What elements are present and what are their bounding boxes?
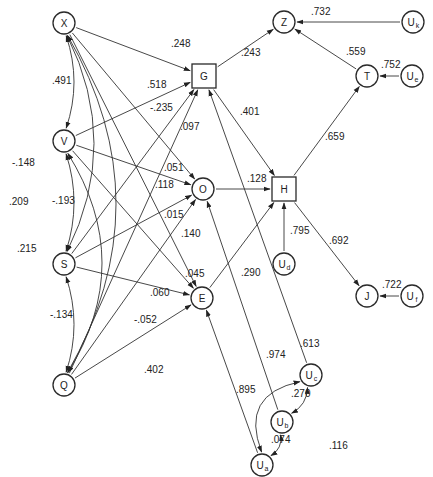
coefficient-label: .974 (266, 349, 286, 360)
coefficient-label: .243 (241, 47, 261, 58)
node-label: U (407, 17, 414, 28)
coefficient-label: .559 (346, 46, 366, 57)
node-label: H (280, 184, 287, 195)
path-arrow-s-to-o (75, 195, 191, 258)
nodes-layer: XVSQGOEHZUkTUeUdJUfUcUbUa (53, 11, 424, 476)
node-label: V (61, 136, 68, 147)
coefficient-label: .097 (180, 121, 200, 132)
node-subscript: d (287, 264, 291, 271)
node-uf: Uf (401, 285, 423, 307)
coefficient-label: .795 (290, 225, 310, 236)
coefficient-label: .722 (382, 279, 402, 290)
node-g: G (192, 64, 216, 88)
coefficient-label: -.193 (52, 195, 75, 206)
node-label: T (364, 71, 370, 82)
coefficient-label: .128 (247, 173, 267, 184)
coefficient-label: .613 (300, 338, 320, 349)
node-subscript: f (416, 296, 418, 303)
coefficient-label: -.052 (134, 314, 157, 325)
node-subscript: k (416, 22, 420, 29)
coefficient-label: -.148 (12, 157, 35, 168)
node-uk: Uk (402, 11, 424, 33)
path-arrow-q-to-o (72, 200, 196, 375)
coefficient-label: .248 (171, 38, 191, 49)
coefficient-label: .659 (325, 131, 345, 142)
path-arrow-v-to-g (76, 82, 190, 135)
node-t: T (356, 65, 378, 87)
path-diagram: XVSQGOEHZUkTUeUdJUfUcUbUa .248.518-.235.… (0, 0, 433, 477)
path-arrow-x-to-g (76, 28, 190, 71)
node-z: Z (273, 11, 295, 33)
coefficient-label: -.134 (50, 309, 73, 320)
coefficient-label: .051 (164, 162, 184, 173)
node-ue: Ue (401, 65, 423, 87)
node-ub: Ub (271, 411, 293, 433)
path-arrow-q-to-e (75, 305, 191, 378)
coefficient-label: .118 (155, 179, 174, 190)
node-v: V (53, 130, 75, 152)
coefficient-label: -.235 (150, 102, 173, 113)
coefficient-label: .270 (291, 388, 311, 399)
coefficient-label: .215 (17, 243, 37, 254)
node-ua: Ua (251, 454, 273, 476)
edges-layer (69, 22, 400, 453)
node-x: X (53, 12, 75, 34)
coefficient-label: .402 (144, 364, 164, 375)
coefficient-label: .692 (329, 235, 349, 246)
coefficient-label: .518 (147, 79, 167, 90)
coefficient-label: .045 (185, 268, 205, 279)
node-subscript: a (265, 465, 269, 472)
node-label: X (61, 18, 68, 29)
node-label: J (365, 291, 370, 302)
node-h: H (272, 177, 296, 201)
node-label: U (305, 370, 312, 381)
path-arrow-ua-to-e (206, 310, 257, 453)
coefficient-label: .015 (164, 209, 184, 220)
correlation-arc-s-q (66, 277, 74, 372)
node-label: U (278, 259, 285, 270)
coefficient-label: .209 (9, 196, 29, 207)
node-subscript: e (415, 76, 419, 83)
node-label: O (199, 184, 207, 195)
node-label: U (406, 291, 413, 302)
node-label: U (256, 460, 263, 471)
coefficient-label: .732 (311, 6, 331, 17)
coefficient-label: .752 (381, 59, 401, 70)
node-subscript: c (314, 375, 318, 382)
coefficient-label: .401 (240, 106, 260, 117)
coefficient-label: .895 (236, 384, 256, 395)
node-j: J (356, 285, 378, 307)
node-label: E (199, 293, 206, 304)
node-label: S (61, 259, 68, 270)
coefficient-label: .290 (241, 267, 261, 278)
node-label: U (406, 71, 413, 82)
coefficient-label: .140 (181, 228, 201, 239)
coefficient-label: .116 (329, 440, 348, 451)
path-arrow-h-to-j (295, 203, 359, 286)
node-uc: Uc (300, 364, 322, 386)
path-arrow-g-to-h (214, 90, 275, 176)
node-q: Q (53, 374, 75, 396)
node-label: G (200, 71, 208, 82)
node-ud: Ud (273, 253, 295, 275)
path-arrow-ub-to-o (207, 201, 278, 409)
path-arrow-x-to-e (70, 35, 196, 287)
node-label: Q (60, 380, 68, 391)
coefficient-label: .060 (150, 287, 170, 298)
node-label: U (276, 417, 283, 428)
coefficient-label: .491 (52, 75, 72, 86)
path-arrow-s-to-e (77, 267, 190, 295)
node-subscript: b (285, 422, 289, 429)
node-e: E (191, 287, 213, 309)
node-o: O (192, 178, 214, 200)
node-label: Z (281, 17, 287, 28)
node-s: S (53, 253, 75, 275)
coefficient-label: .074 (271, 434, 291, 445)
